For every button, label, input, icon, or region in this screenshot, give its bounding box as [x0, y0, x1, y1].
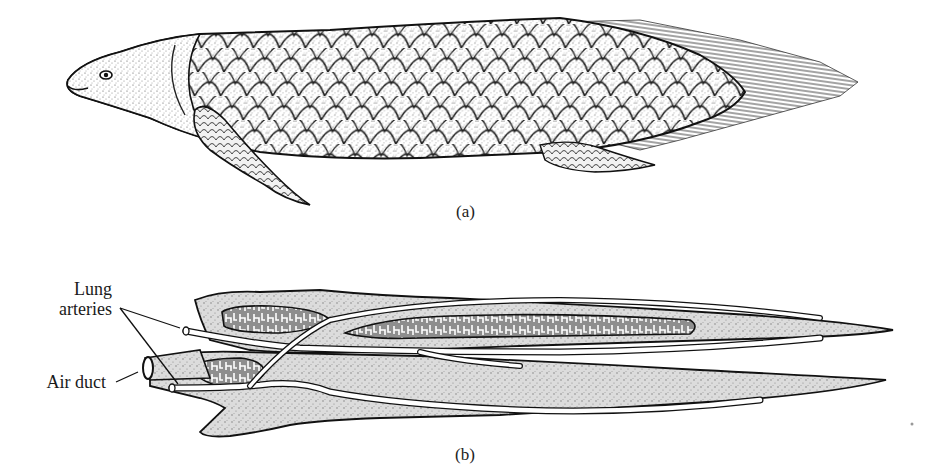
panel-a-lungfish: (a) [0, 0, 944, 235]
lungfish-illustration [0, 0, 944, 235]
caption-a: (a) [456, 202, 475, 222]
panel-b-lungs: Lung arteries Air duct (b) [0, 235, 944, 473]
label-lung-arteries-line2: arteries [40, 299, 112, 319]
label-lung-arteries-line1: Lung [56, 279, 112, 299]
label-air-duct: Air duct [24, 372, 106, 392]
fish-head [67, 34, 210, 140]
caption-b: (b) [455, 445, 475, 465]
lungs-diagram [0, 235, 944, 473]
air-duct-opening [143, 357, 153, 379]
